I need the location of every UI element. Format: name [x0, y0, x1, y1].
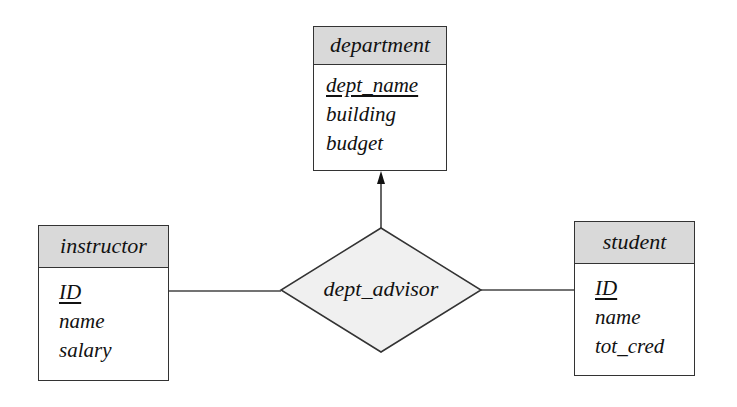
entity-student: student ID name tot_cred: [574, 221, 695, 376]
entity-department: department dept_name building budget: [313, 26, 447, 171]
attribute: tot_cred: [595, 332, 694, 361]
attribute: salary: [59, 336, 168, 365]
attribute-list: ID name salary: [39, 268, 168, 365]
attribute: name: [59, 307, 168, 336]
entity-title: student: [575, 222, 694, 264]
entity-instructor: instructor ID name salary: [38, 225, 169, 381]
relationship-label: dept_advisor: [281, 276, 481, 302]
attribute: name: [595, 303, 694, 332]
attribute-primary-key: ID: [595, 274, 694, 303]
attribute-primary-key: ID: [59, 278, 168, 307]
entity-title: department: [314, 27, 446, 65]
arrowhead-icon: [377, 171, 385, 184]
attribute-list: ID name tot_cred: [575, 264, 694, 361]
entity-title: instructor: [39, 226, 168, 268]
attribute-list: dept_name building budget: [314, 65, 446, 158]
attribute: budget: [326, 129, 446, 158]
attribute: building: [326, 100, 446, 129]
attribute-primary-key: dept_name: [326, 71, 446, 100]
